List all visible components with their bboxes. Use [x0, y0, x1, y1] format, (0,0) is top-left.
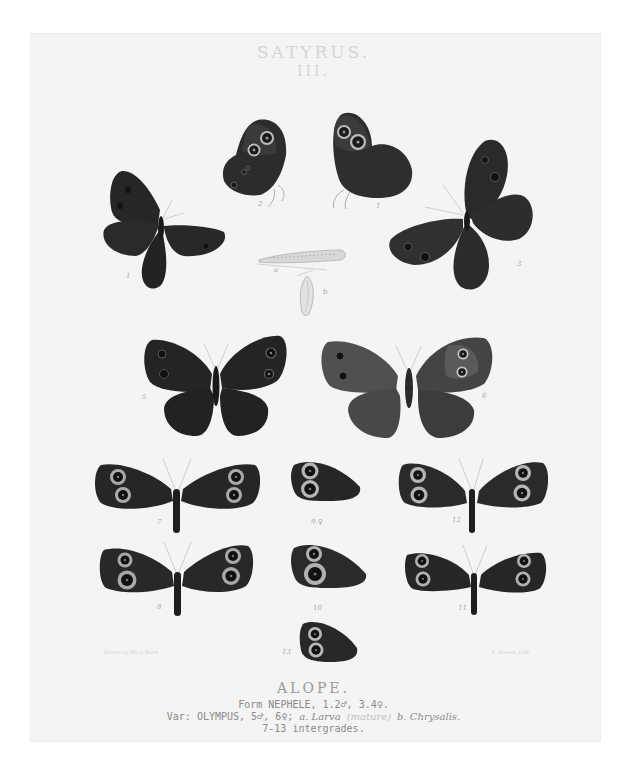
- figure-1-butterfly: [100, 168, 230, 298]
- figure-3-label: 3: [517, 260, 521, 268]
- figure-8-butterfly: [98, 538, 258, 618]
- figure-3-butterfly: [385, 135, 540, 295]
- caption-form-line: Form NEPHELE, 1.2♂, 3.4♀.: [0, 699, 627, 710]
- figure-5-label: 5: [142, 393, 146, 401]
- figure-10-forewing: [290, 540, 370, 595]
- chrysalis-label: b: [323, 288, 327, 296]
- figure-2-butterfly-underside: [220, 115, 295, 210]
- figure-6-butterfly: [318, 332, 498, 442]
- caption-var-prefix: Var: OLYMPUS, 5♂, 6♀;: [167, 711, 293, 722]
- caption-var-line: Var: OLYMPUS, 5♂, 6♀; a. Larva (mature) …: [0, 711, 627, 722]
- figure-6-label: 6: [482, 392, 486, 400]
- figure-8-label: 8: [157, 603, 161, 611]
- figure-9-forewing: [290, 457, 365, 507]
- figure-1-label: 1: [126, 272, 130, 280]
- species-title: ALOPE.: [0, 680, 627, 696]
- caption-chrysalis: b. Chrysalis.: [397, 711, 460, 722]
- figure-2b-label: 1: [376, 202, 380, 210]
- figure-10-label: 10: [313, 604, 322, 612]
- lithographer-credit: L. Bowen, Lith.: [492, 649, 531, 655]
- figure-11-butterfly: [403, 545, 548, 620]
- larva-label: a: [274, 266, 278, 274]
- figure-12-butterfly: [397, 455, 552, 535]
- caption-intergrades: 7-13 intergrades.: [0, 723, 627, 734]
- figure-2-label: 2: [258, 200, 262, 208]
- figure-13-forewing: [297, 618, 362, 668]
- plate-genus-title: SATYRUS.: [0, 42, 627, 62]
- chrysalis-illustration: [295, 270, 319, 320]
- caption-larva: a. Larva: [299, 711, 340, 722]
- figure-5-butterfly: [140, 332, 290, 442]
- caption-larva-note: (mature): [347, 711, 391, 722]
- figure-12-label: 12: [452, 516, 461, 524]
- figure-13-label: 13: [282, 648, 291, 656]
- plate-number: III.: [0, 63, 627, 79]
- figure-7-label: 7: [157, 518, 161, 526]
- artist-credit: Drawn by Mary Peart: [104, 649, 158, 655]
- figure-9-label: 9.♀: [311, 518, 323, 526]
- figure-11-label: 11: [458, 604, 467, 612]
- figure-7-butterfly: [93, 455, 263, 535]
